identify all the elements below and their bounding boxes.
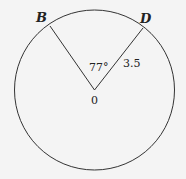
point-d-label: D [139, 11, 152, 26]
center-label: 0 [91, 94, 98, 107]
radius-ob [50, 26, 95, 90]
angle-label: 77° [89, 61, 109, 74]
circle-diagram: B D 77° 3.5 0 [0, 0, 186, 179]
radius-label: 3.5 [123, 57, 141, 70]
point-b-label: B [35, 10, 47, 25]
diagram-canvas: B D 77° 3.5 0 [0, 0, 186, 179]
